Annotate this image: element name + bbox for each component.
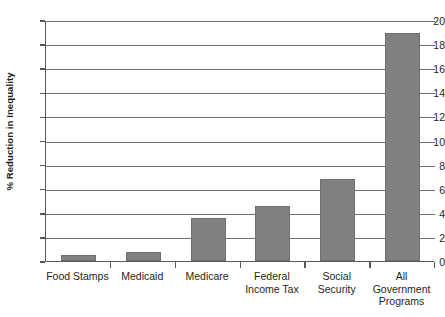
x-tick-mark [304,262,305,268]
x-tick-label: AllGovernmentPrograms [363,270,440,308]
gridline [46,238,435,239]
bar-chart: % Reduction in Inequality 20181614121086… [0,0,445,317]
x-tick-mark [110,262,111,268]
bar [255,206,290,261]
gridline [46,21,435,22]
plot-area [45,21,434,262]
gridline [46,190,435,191]
x-tick-mark [240,262,241,268]
bar [191,218,226,261]
bar [126,252,161,261]
bar [385,33,420,261]
x-tick-mark [434,262,435,268]
bar [61,255,96,261]
gridline [46,45,435,46]
x-tick-label-line: Programs [363,295,440,308]
gridline [46,142,435,143]
x-tick-label-line: All [363,270,440,283]
y-axis-title: % Reduction in Inequality [0,0,18,262]
gridline [46,166,435,167]
x-tick-mark [369,262,370,268]
x-tick-label-line: Government [363,283,440,296]
y-axis-title-text: % Reduction in Inequality [4,72,15,190]
gridline [46,93,435,94]
gridline [46,69,435,70]
gridline [46,214,435,215]
x-tick-mark [175,262,176,268]
gridline [46,117,435,118]
bar [320,179,355,261]
